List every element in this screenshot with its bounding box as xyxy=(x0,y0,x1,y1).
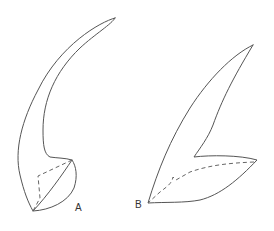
figure: A B xyxy=(0,0,274,231)
panel-a-inner-line xyxy=(33,160,72,211)
panel-a-label: A xyxy=(75,202,82,213)
panel-b-outline xyxy=(148,45,257,203)
panel-a: A xyxy=(18,18,115,213)
panel-b: B xyxy=(135,45,257,210)
panel-a-outline xyxy=(18,18,115,211)
panel-b-dashed-line xyxy=(148,162,254,203)
panel-b-label: B xyxy=(135,199,142,210)
panel-a-dashed-line xyxy=(33,160,72,211)
